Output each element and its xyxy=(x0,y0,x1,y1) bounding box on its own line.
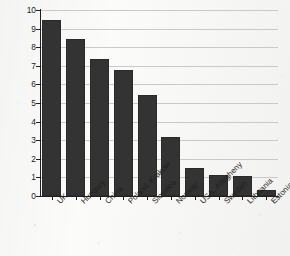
bar xyxy=(90,59,109,196)
y-tick-label: 5 xyxy=(14,99,36,107)
x-tick-mark xyxy=(100,197,101,200)
gridline xyxy=(40,10,278,11)
y-tick-label: 9 xyxy=(14,25,36,33)
gridline xyxy=(40,29,278,30)
y-tick-label: 10 xyxy=(14,6,36,14)
x-tick-mark xyxy=(171,197,172,200)
x-tick-mark xyxy=(242,197,243,200)
y-tick-label: 2 xyxy=(14,155,36,163)
y-tick-label: 8 xyxy=(14,43,36,51)
x-tick-mark xyxy=(219,197,220,200)
y-tick-mark xyxy=(36,66,40,67)
bar xyxy=(114,70,133,196)
y-tick-mark xyxy=(36,29,40,30)
x-axis-labels: UKHungaryChinaPoland, KrakowSlovakiaNorw… xyxy=(0,197,290,256)
x-tick-mark xyxy=(76,197,77,200)
x-tick-mark xyxy=(123,197,124,200)
y-tick-mark xyxy=(36,177,40,178)
y-tick-label: 6 xyxy=(14,80,36,88)
y-tick-mark xyxy=(36,103,40,104)
y-tick-mark xyxy=(36,47,40,48)
y-tick-mark xyxy=(36,10,40,11)
x-tick-mark xyxy=(195,197,196,200)
x-tick-mark xyxy=(266,197,267,200)
y-tick-mark xyxy=(36,159,40,160)
y-tick-label: 1 xyxy=(14,173,36,181)
y-tick-label: 4 xyxy=(14,118,36,126)
x-tick-mark xyxy=(52,197,53,200)
y-tick-mark xyxy=(36,122,40,123)
bar-chart: Increase in incidence (% per year) 01234… xyxy=(0,0,290,256)
y-tick-mark xyxy=(36,140,40,141)
y-tick-label: 7 xyxy=(14,62,36,70)
y-axis-line xyxy=(40,9,41,197)
x-tick-mark xyxy=(147,197,148,200)
y-tick-label: 3 xyxy=(14,136,36,144)
bar xyxy=(66,39,85,196)
y-tick-mark xyxy=(36,84,40,85)
bar xyxy=(42,20,61,196)
